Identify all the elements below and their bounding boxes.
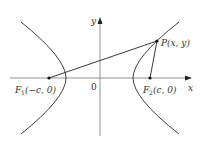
svg-text:(c, 0): (c, 0) [153, 85, 177, 95]
F1-label: F 1 (−c, 0) [14, 85, 57, 96]
y-axis-arrow-icon [98, 17, 103, 24]
x-axis-label: x [188, 83, 193, 93]
svg-text:(x, y): (x, y) [167, 38, 190, 48]
origin-label: 0 [91, 82, 97, 92]
y-axis-label: y [90, 16, 97, 26]
x-axis-arrow-icon [185, 76, 192, 81]
y-axis [98, 17, 103, 136]
focus-F1-point [47, 76, 50, 79]
svg-text:(−c, 0): (−c, 0) [25, 85, 57, 95]
x-axis [10, 76, 192, 81]
point-P [155, 39, 158, 42]
hyperbola-diagram: y x 0 F 1 (−c, 0) F 2 (c, 0) P (x, y) [0, 0, 205, 146]
P-label: P (x, y) [160, 38, 190, 48]
focus-F2-point [148, 76, 151, 79]
F2-label: F 2 (c, 0) [142, 85, 177, 96]
